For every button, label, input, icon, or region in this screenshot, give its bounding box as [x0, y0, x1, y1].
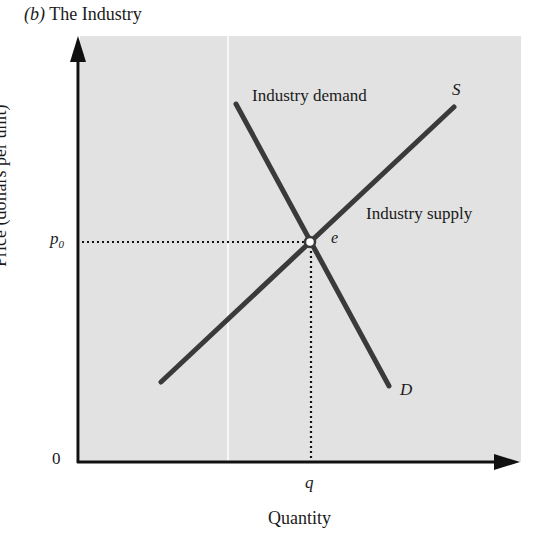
supply-short-label: S [452, 80, 461, 100]
equilibrium-label: e [331, 229, 338, 247]
p0-subscript: 0 [59, 238, 65, 250]
p0-symbol: p [50, 229, 59, 248]
equilibrium-point [305, 237, 315, 247]
p0-tick-label: p0 [50, 229, 64, 250]
origin-label: 0 [52, 449, 61, 469]
industry-demand-label: Industry demand [252, 86, 367, 106]
industry-supply-label: Industry supply [366, 204, 472, 224]
y-axis-label: Price (dollars per unit) [0, 0, 11, 267]
demand-short-label: D [400, 380, 412, 400]
q-tick-label: q [305, 473, 314, 493]
x-axis-label: Quantity [268, 508, 331, 529]
